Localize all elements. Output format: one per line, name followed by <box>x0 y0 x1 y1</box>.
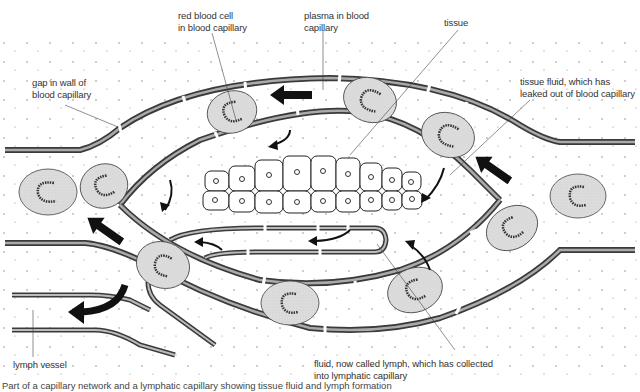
label-line: blood capillary <box>32 89 91 101</box>
label-lymph-vessel: lymph vessel <box>13 359 67 371</box>
label-gap-in-wall: gap in wall of blood capillary <box>32 77 91 101</box>
label-line: capillary <box>304 22 369 34</box>
label-plasma: plasma in blood capillary <box>304 10 369 34</box>
label-lymph-fluid: fluid, now called lymph, which has colle… <box>314 358 493 382</box>
label-tissue-fluid: tissue fluid, which has leaked out of bl… <box>520 76 635 100</box>
label-red-blood-cell: red blood cell in blood capillary <box>178 10 247 34</box>
label-line: tissue fluid, which has <box>520 76 635 88</box>
label-line: fluid, now called lymph, which has colle… <box>314 358 493 370</box>
label-line: in blood capillary <box>178 22 247 34</box>
label-line: lymph vessel <box>13 359 67 371</box>
label-line: tissue <box>444 17 468 29</box>
label-line: gap in wall of <box>32 77 91 89</box>
label-line: leaked out of blood capillary <box>520 88 635 100</box>
figure-caption: Part of a capillary network and a lympha… <box>2 380 392 391</box>
label-line: plasma in blood <box>304 10 369 22</box>
label-tissue: tissue <box>444 17 468 29</box>
label-line: red blood cell <box>178 10 247 22</box>
